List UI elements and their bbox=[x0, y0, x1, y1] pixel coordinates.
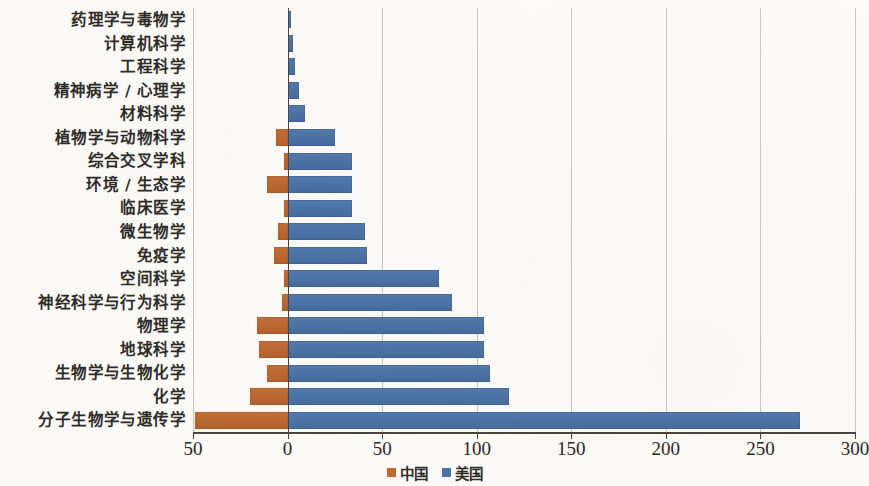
bar-row bbox=[193, 173, 855, 197]
bar-row bbox=[193, 267, 855, 291]
bar-row bbox=[193, 220, 855, 244]
category-label: 环境 / 生态学 bbox=[86, 173, 186, 197]
bar-usa bbox=[288, 200, 352, 217]
category-label: 生物学与生物化学 bbox=[55, 361, 186, 385]
category-label: 物理学 bbox=[137, 314, 186, 338]
bar-row bbox=[193, 8, 855, 32]
category-label: 空间科学 bbox=[120, 267, 186, 291]
legend-label-usa: 美国 bbox=[455, 462, 483, 483]
bar-usa bbox=[288, 317, 485, 334]
category-label: 植物学与动物科学 bbox=[55, 126, 186, 150]
category-label: 分子生物学与遗传学 bbox=[38, 408, 186, 432]
bar-usa bbox=[288, 223, 366, 240]
bar-usa bbox=[288, 82, 299, 99]
bar-usa bbox=[288, 270, 439, 287]
bar-usa bbox=[288, 294, 453, 311]
bar-china bbox=[195, 412, 288, 429]
bar-usa bbox=[288, 341, 485, 358]
x-tick-label: 150 bbox=[557, 438, 586, 460]
bar-usa bbox=[288, 129, 335, 146]
bar-row bbox=[193, 408, 855, 432]
category-axis-labels: 药理学与毒物学计算机科学工程科学精神病学 / 心理学材料科学植物学与动物科学综合… bbox=[0, 8, 186, 432]
x-tick-label: 100 bbox=[462, 438, 491, 460]
bar-china bbox=[274, 247, 287, 264]
bar-row bbox=[193, 149, 855, 173]
x-tick-label: 50 bbox=[373, 438, 392, 460]
category-label: 计算机科学 bbox=[104, 32, 186, 56]
bar-china bbox=[267, 176, 288, 193]
bar-usa bbox=[288, 247, 367, 264]
x-tick-label: 200 bbox=[652, 438, 681, 460]
x-axis-line bbox=[193, 432, 856, 434]
category-label: 化学 bbox=[153, 385, 186, 409]
category-label: 神经科学与行为科学 bbox=[38, 291, 186, 315]
bar-china bbox=[257, 317, 287, 334]
bar-china bbox=[276, 129, 287, 146]
category-label: 地球科学 bbox=[120, 338, 186, 362]
category-label: 药理学与毒物学 bbox=[71, 8, 186, 32]
bar-china bbox=[267, 365, 288, 382]
chart-legend: 中国 美国 bbox=[0, 462, 869, 483]
category-label: 微生物学 bbox=[120, 220, 186, 244]
bar-row bbox=[193, 102, 855, 126]
x-tick-label: 50 bbox=[184, 438, 203, 460]
category-label: 工程科学 bbox=[120, 55, 186, 79]
bar-row bbox=[193, 32, 855, 56]
category-label: 临床医学 bbox=[120, 196, 186, 220]
bar-china bbox=[278, 223, 287, 240]
bar-row bbox=[193, 361, 855, 385]
bar-row bbox=[193, 55, 855, 79]
legend-swatch-china-icon bbox=[387, 468, 396, 477]
x-tick-label: 0 bbox=[283, 438, 293, 460]
legend-swatch-usa-icon bbox=[442, 468, 451, 477]
bar-china bbox=[250, 388, 288, 405]
category-label: 综合交叉学科 bbox=[88, 149, 186, 173]
category-label: 免疫学 bbox=[137, 244, 186, 268]
bar-row bbox=[193, 79, 855, 103]
bar-usa bbox=[288, 412, 801, 429]
bar-usa bbox=[288, 105, 305, 122]
legend-item-usa: 美国 bbox=[442, 462, 483, 483]
bar-row bbox=[193, 244, 855, 268]
legend-item-china: 中国 bbox=[387, 462, 428, 483]
legend-label-china: 中国 bbox=[400, 462, 428, 483]
bar-row bbox=[193, 385, 855, 409]
x-tick-label: 250 bbox=[746, 438, 775, 460]
category-label: 精神病学 / 心理学 bbox=[54, 79, 186, 103]
gridline-300 bbox=[855, 8, 856, 432]
x-tick-label: 300 bbox=[841, 438, 869, 460]
zero-axis-line bbox=[288, 8, 290, 432]
bar-row bbox=[193, 314, 855, 338]
bar-usa bbox=[288, 365, 490, 382]
bar-row bbox=[193, 126, 855, 150]
category-label: 材料科学 bbox=[120, 102, 186, 126]
bar-usa bbox=[288, 388, 509, 405]
bar-row bbox=[193, 196, 855, 220]
plot-area bbox=[193, 8, 855, 432]
diverging-bar-chart: 药理学与毒物学计算机科学工程科学精神病学 / 心理学材料科学植物学与动物科学综合… bbox=[0, 0, 869, 486]
bar-usa bbox=[288, 176, 352, 193]
bar-row bbox=[193, 338, 855, 362]
bar-usa bbox=[288, 153, 352, 170]
bar-row bbox=[193, 291, 855, 315]
bar-china bbox=[259, 341, 287, 358]
